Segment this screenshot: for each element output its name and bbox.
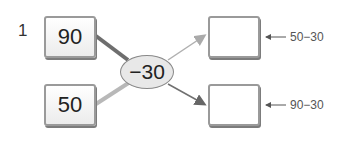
answer-box-bottom[interactable]	[208, 84, 260, 126]
input-box-top: 90	[44, 16, 96, 58]
operator-oval: −30	[120, 55, 174, 89]
input-box-bottom: 50	[44, 84, 96, 126]
problem-number: 1	[18, 21, 27, 41]
answer-box-top[interactable]	[208, 16, 260, 58]
hint-bottom: 90−30	[290, 98, 324, 112]
hint-top: 50−30	[290, 30, 324, 44]
